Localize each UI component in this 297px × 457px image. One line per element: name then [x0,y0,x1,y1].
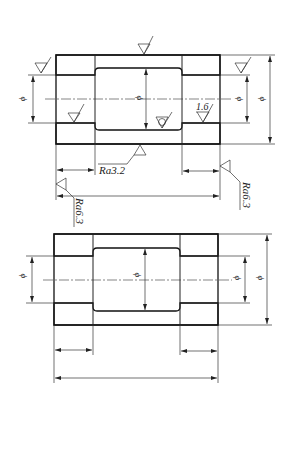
top-view: ϕ ϕ ϕ ϕ 1.6 Ra3.2 [17,36,275,227]
phi-label: ϕ [231,275,241,280]
phi-label: ϕ [17,96,27,101]
phi-label: ϕ [254,275,264,280]
top-wall-hatch [56,55,220,75]
roughness-symbol-machined-circle [156,112,172,128]
top-wall-hatch [54,234,218,256]
roughness-symbol-right-end [220,160,240,210]
phi-label: ϕ [131,272,141,277]
roughness-value-ra3-2: Ra3.2 [98,164,125,176]
technical-drawing: ϕ ϕ ϕ ϕ 1.6 Ra3.2 [0,0,297,457]
roughness-symbol-left-bore [68,104,84,122]
phi-label: ϕ [133,95,143,100]
roughness-symbol-top-left [35,57,51,73]
phi-label: ϕ [233,96,243,101]
roughness-value-1-6: 1.6 [196,101,209,112]
phi-label: ϕ [17,273,27,278]
roughness-symbol-top-right [235,57,251,73]
roughness-value-ra6-3-left: Ra6.3 [74,197,86,224]
bottom-wall-hatch [54,303,218,325]
roughness-value-ra6-3-right: Ra6.3 [241,181,253,208]
bottom-wall-hatch [56,123,220,144]
bottom-view: ϕ ϕ ϕ ϕ [17,234,272,383]
phi-label: ϕ [256,96,266,101]
roughness-symbol-top [138,36,153,54]
roughness-symbol-left-end [56,178,74,227]
roughness-symbol-bottom-center [98,145,146,164]
